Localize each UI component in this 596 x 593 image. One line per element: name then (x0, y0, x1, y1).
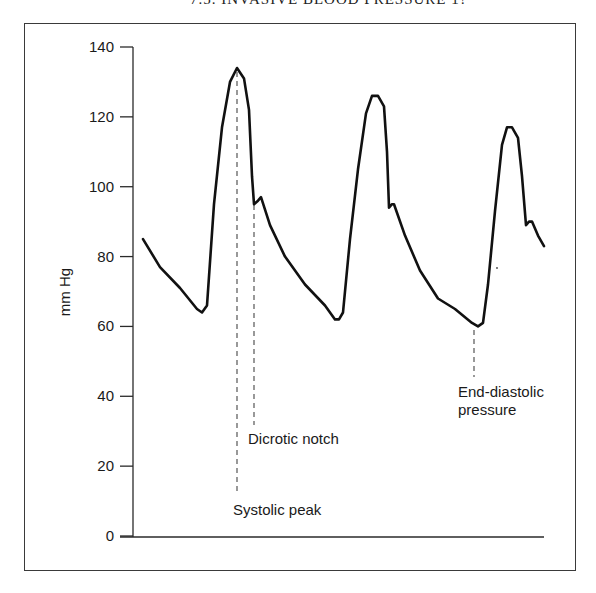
y-tick-label: 120 (89, 108, 114, 125)
y-tick-label: 60 (97, 317, 114, 334)
chart: 020406080100120140 mm Hg Dicrotic notch … (0, 0, 596, 593)
y-tick-label: 80 (97, 248, 114, 265)
y-axis-label: mm Hg (56, 268, 73, 316)
end-diastolic-label-line1: End-diastolic (458, 383, 544, 400)
y-ticks: 020406080100120140 (89, 38, 133, 544)
y-tick-label: 40 (97, 387, 114, 404)
print-speck (496, 267, 498, 269)
y-tick-label: 140 (89, 38, 114, 55)
systolic-peak-label: Systolic peak (233, 501, 322, 518)
y-tick-label: 100 (89, 178, 114, 195)
axes: 020406080100120140 (89, 38, 544, 544)
dicrotic-notch-label: Dicrotic notch (248, 430, 339, 447)
y-tick-label: 20 (97, 457, 114, 474)
y-tick-label: 0 (106, 527, 114, 544)
pressure-waveform-line (143, 68, 544, 326)
end-diastolic-label-line2: pressure (458, 401, 516, 418)
